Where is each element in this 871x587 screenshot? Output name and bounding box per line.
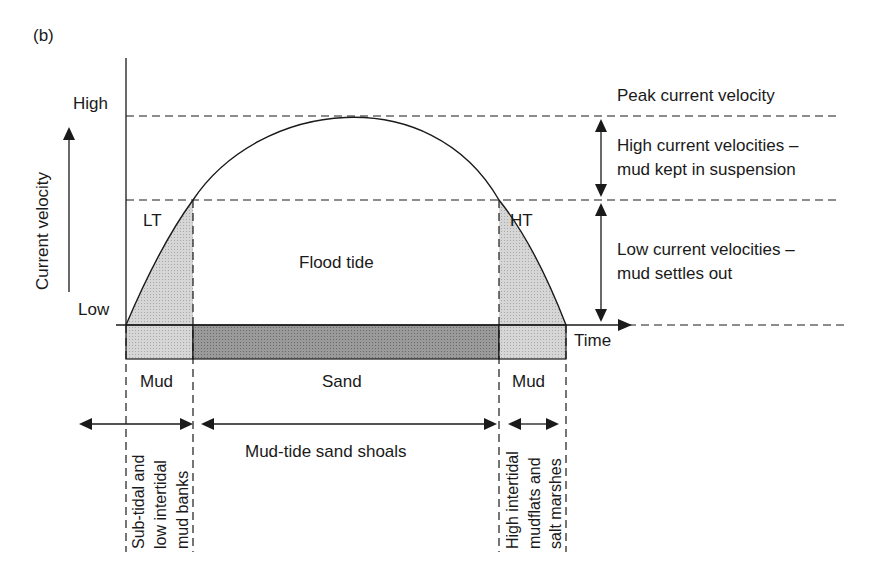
- environment-left-line1: Sub-tidal and: [128, 455, 149, 549]
- high-velocity-annotation-line1: High current velocities –: [617, 136, 798, 156]
- environment-center-label: Mud-tide sand shoals: [245, 442, 407, 462]
- sediment-mud-left-label: Mud: [140, 372, 173, 392]
- sediment-mud-right-label: Mud: [512, 372, 545, 392]
- sediment-bar-sand: [193, 325, 499, 359]
- low-velocity-annotation-line2: mud settles out: [617, 264, 732, 284]
- range-arrow-right: [508, 418, 559, 430]
- high-velocity-annotation-line2: mud kept in suspension: [617, 160, 796, 180]
- y-axis-high-label: High: [73, 94, 108, 114]
- y-axis-title: Current velocity: [32, 172, 53, 290]
- panel-label: (b): [33, 26, 54, 46]
- peak-velocity-annotation: Peak current velocity: [617, 86, 775, 106]
- environment-right-line3: salt marshes: [545, 458, 566, 549]
- sediment-bar-mud-left: [126, 325, 193, 359]
- x-axis-arrowhead: [618, 319, 632, 331]
- flood-tide-label: Flood tide: [299, 253, 374, 273]
- sediment-sand-label: Sand: [322, 372, 362, 392]
- sediment-bar-mud-right: [499, 325, 566, 359]
- environment-right-line1: High intertidal: [502, 451, 523, 549]
- low-velocity-range-arrow: [595, 203, 607, 322]
- environment-right-line2: mudflats and: [524, 457, 545, 549]
- y-title-arrowhead: [63, 127, 75, 140]
- range-arrow-center: [201, 418, 497, 430]
- range-arrow-left: [79, 418, 193, 430]
- environment-left-line2: low intertidal: [150, 460, 171, 549]
- lt-label: LT: [143, 211, 162, 231]
- ht-label: HT: [510, 211, 533, 231]
- x-axis-title: Time: [574, 331, 611, 351]
- high-velocity-range-arrow: [595, 119, 607, 197]
- low-velocity-annotation-line1: Low current velocities –: [617, 240, 795, 260]
- y-axis-low-label: Low: [78, 300, 109, 320]
- environment-left-line3: mud banks: [172, 471, 193, 549]
